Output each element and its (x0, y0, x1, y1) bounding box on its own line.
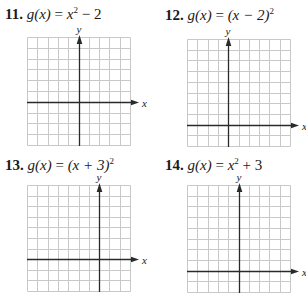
x-axis-arrow-icon (291, 269, 299, 275)
x-axis-label: x (141, 254, 147, 266)
equals-sign: = (55, 6, 63, 22)
problem-12-equation: 12. g(x) = (x − 2)2 (165, 7, 274, 23)
function-name: g(x) (188, 157, 212, 173)
exponent: 2 (109, 156, 114, 166)
coordinate-grid-14[interactable]: xy (187, 185, 291, 293)
y-axis: y (225, 25, 232, 147)
x-axis-label: x (301, 120, 306, 132)
equals-sign: = (55, 157, 63, 173)
y-axis-arrow-icon (226, 37, 232, 46)
problem-14-equation: 14. g(x) = x2 + 3 (165, 157, 262, 173)
y-axis: y (76, 23, 83, 146)
exponent: 2 (269, 6, 274, 16)
x-axis-arrow-icon (291, 123, 299, 129)
function-name: g(x) (188, 7, 212, 23)
coordinate-grid-11[interactable]: xy (27, 37, 131, 146)
y-axis: y (96, 171, 103, 292)
y-axis-arrow-icon (237, 183, 243, 192)
coordinate-grid-13[interactable]: xy (27, 185, 131, 292)
function-name: g(x) (27, 6, 51, 22)
x-axis-arrow-icon (131, 257, 139, 263)
x-axis: x (27, 254, 147, 266)
y-axis-label: y (225, 25, 231, 37)
function-body: (x + 3) (68, 157, 110, 173)
function-body: (x − 2) (228, 7, 270, 23)
grid-lines (188, 40, 291, 147)
problem-11-equation: 11. g(x) = x2 − 2 (5, 6, 101, 22)
problem-number: 12. (165, 7, 184, 23)
equals-sign: = (215, 157, 223, 173)
y-axis-arrow-icon (77, 35, 83, 44)
problem-number: 11. (5, 6, 23, 22)
coordinate-grid-12[interactable]: xy (187, 39, 291, 147)
problem-number: 14. (165, 157, 184, 173)
x-axis: x (187, 120, 306, 132)
x-axis-label: x (301, 266, 306, 278)
function-constant: + 3 (239, 157, 262, 173)
function-name: g(x) (28, 157, 52, 173)
y-axis-label: y (76, 23, 82, 35)
x-axis-label: x (141, 97, 147, 109)
x-axis: x (187, 266, 306, 278)
y-axis-label: y (236, 171, 242, 183)
y-axis-arrow-icon (97, 183, 103, 192)
equals-sign: = (215, 7, 223, 23)
y-axis: y (236, 171, 243, 293)
x-axis: x (27, 97, 147, 109)
grid-lines (28, 186, 131, 292)
problem-number: 13. (5, 157, 24, 173)
y-axis-label: y (96, 171, 102, 183)
x-axis-arrow-icon (131, 100, 139, 106)
function-constant: − 2 (78, 6, 101, 22)
